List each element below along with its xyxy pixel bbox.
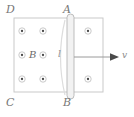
field-dot-1 xyxy=(40,28,46,34)
field-strength-label: B xyxy=(29,50,36,60)
field-dot-4 xyxy=(40,52,46,58)
corner-label-a: A xyxy=(63,4,71,15)
corner-label-d: D xyxy=(6,4,15,15)
field-dot-2 xyxy=(85,28,91,34)
corner-label-c: C xyxy=(6,97,14,108)
physics-diagram-figure: D A C B B l v xyxy=(0,0,134,117)
field-dot-3 xyxy=(19,52,25,58)
field-dot-0 xyxy=(19,28,25,34)
conducting-rod xyxy=(67,14,74,99)
velocity-arrow-head xyxy=(110,53,119,61)
field-dot-5 xyxy=(19,76,25,82)
field-dot-7 xyxy=(85,76,91,82)
velocity-label: v xyxy=(122,51,127,60)
corner-label-b: B xyxy=(63,97,71,108)
rod-length-label: l xyxy=(58,50,61,59)
field-dot-6 xyxy=(40,76,46,82)
